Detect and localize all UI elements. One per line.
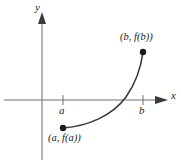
tick-label-b: b bbox=[139, 105, 145, 116]
point-marker-b bbox=[140, 49, 146, 55]
y-axis-arrowhead bbox=[38, 12, 46, 24]
function-graph-figure: y x a b (b, f(b)) (a, f(a)) bbox=[0, 0, 181, 167]
point-label-a: (a, f(a)) bbox=[48, 133, 81, 144]
graph-canvas bbox=[0, 0, 181, 167]
point-marker-a bbox=[60, 125, 66, 131]
point-label-b: (b, f(b)) bbox=[120, 32, 153, 43]
tick-label-a: a bbox=[59, 105, 65, 116]
x-axis-label: x bbox=[171, 90, 176, 101]
function-curve bbox=[63, 52, 143, 128]
x-axis-arrowhead bbox=[155, 96, 168, 104]
y-axis-label: y bbox=[35, 2, 40, 13]
